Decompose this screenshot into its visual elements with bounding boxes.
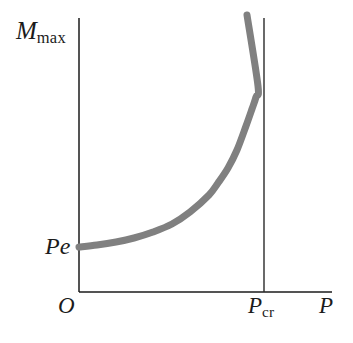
origin-label: O — [58, 294, 75, 317]
y-axis-symbol: M — [16, 17, 37, 44]
critical-load-symbol: P — [248, 293, 262, 318]
initial-moment-label: Pe — [45, 234, 70, 258]
x-axis-label: P — [319, 294, 333, 317]
plot-canvas — [0, 0, 353, 343]
figure-root: Mmax Pe O Pcr P — [0, 0, 353, 343]
response-curve — [79, 15, 258, 247]
critical-load-label: Pcr — [248, 294, 274, 317]
y-axis-subscript: max — [37, 28, 66, 47]
y-axis-label: Mmax — [16, 18, 66, 43]
critical-load-subscript: cr — [262, 303, 274, 320]
